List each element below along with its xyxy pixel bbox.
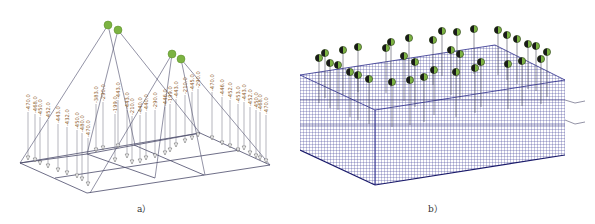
load-label: -443.0 [55,106,61,123]
load-arrow-icon [153,154,157,158]
panel-a-lifting-diagram: -470.0-468.0-450.0-452.0-443.0-432.0-450… [0,0,300,224]
hook-icon [177,55,185,63]
panel-b-rebar-cage: b） [300,0,595,224]
load-label: -450.0 [37,99,43,116]
load-arrow-icon [242,146,246,150]
load-label: -210.0 [129,98,135,115]
load-label: -470.0 [25,94,31,111]
load-arrow-icon [190,136,194,140]
load-arrow-icon [258,156,262,160]
load-arrow-icon [183,139,187,143]
load-arrow-icon [86,182,90,186]
base-frame [20,133,270,193]
load-label: -446.0 [219,79,225,96]
load-label: -440.0 [143,94,149,111]
load-arrow-icon [174,143,178,147]
load-label: -290.0 [195,71,201,88]
load-arrow-icon [56,168,60,172]
lifting-diagram-svg: -470.0-468.0-450.0-452.0-443.0-432.0-450… [0,0,300,224]
load-arrow-icon [130,160,134,164]
caption-b: b） [428,202,443,215]
caption-a: a） [137,202,151,215]
load-arrow-icon [113,158,117,162]
load-label: -470.0 [263,97,269,114]
hook-icons [104,21,185,63]
load-arrow-icon [138,159,142,163]
load-arrow-icon [46,164,50,168]
load-label: -199.0 [112,96,118,113]
load-label: -290.0 [152,92,158,109]
load-arrow-icon [38,161,42,165]
load-label: -443.0 [173,81,179,98]
load-arrow-icon [65,171,69,175]
load-arrows: -470.0-468.0-450.0-452.0-443.0-432.0-450… [25,71,269,186]
load-arrow-icon [248,151,252,155]
load-label: -470.0 [209,74,215,91]
rebar-cage-svg [300,0,595,224]
hook-icon [168,50,176,58]
hook-icon [104,21,112,29]
load-label: -210.0 [182,77,188,94]
hook-icon [114,26,122,34]
load-arrow-icon [144,156,148,160]
load-arrow-icon [75,174,79,178]
load-label: -452.0 [227,82,233,99]
load-arrow-icon [26,156,30,160]
load-arrow-icon [254,154,258,158]
load-arrow-icon [125,154,129,158]
load-arrow-icon [163,151,167,155]
load-label: -452.0 [45,102,51,119]
load-label: -383.0 [93,86,99,103]
load-label: -470.0 [85,120,91,137]
load-arrow-icon [80,177,84,181]
load-arrow-icon [168,148,172,152]
load-label: -432.0 [64,109,70,126]
load-label: -290.0 [100,84,106,101]
load-arrow-icon [220,141,224,145]
